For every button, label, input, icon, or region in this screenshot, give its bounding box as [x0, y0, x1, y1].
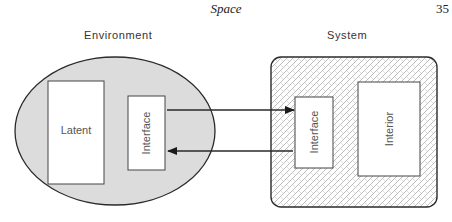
environment-ellipse: [15, 57, 215, 205]
interior-label: Interior: [383, 112, 395, 147]
interior-box: Interior: [358, 82, 420, 176]
system-interface-box: Interface: [295, 97, 333, 168]
latent-box: Latent: [48, 81, 104, 184]
environment-interface-label: Interface: [140, 112, 152, 155]
diagram-canvas: Latent Interface Interface Interior: [0, 0, 452, 222]
system-interface-label: Interface: [308, 111, 320, 154]
environment-interface-box: Interface: [128, 96, 165, 170]
latent-label: Latent: [61, 124, 92, 136]
